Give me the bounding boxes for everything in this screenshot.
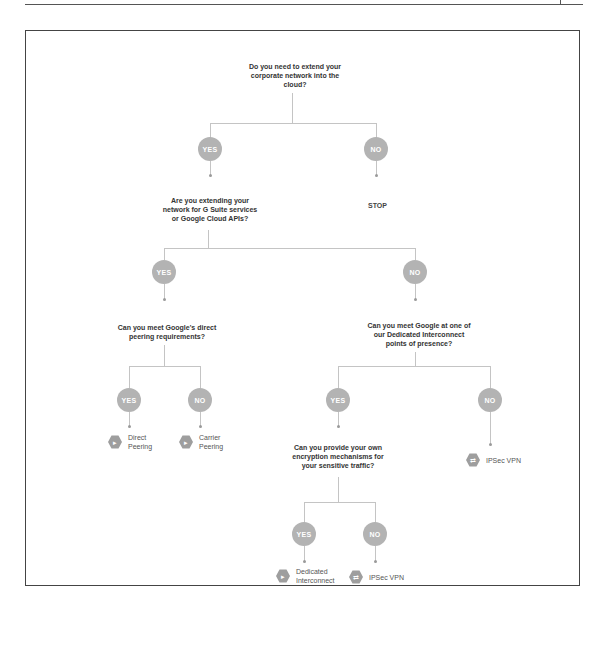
arrow-tip [374,560,377,563]
connector [490,366,491,388]
arrow-tip [163,298,166,301]
arrow-tip [209,174,212,177]
connector [338,366,491,367]
connector [292,93,293,123]
answer-no-node: NO [363,522,387,546]
connector [129,366,201,367]
connector [200,412,201,426]
peering-icon: ▸ [179,435,193,449]
connector [164,284,165,299]
connector [164,345,165,366]
question-interconnect-pop: Can you meet Google at one of our Dedica… [365,321,473,348]
answer-no-node: NO [403,260,427,284]
connector [208,230,209,248]
answer-yes-node: YES [292,522,316,546]
answer-yes-node: YES [117,388,141,412]
outcome-label: IPSec VPN [486,456,521,465]
question-encryption: Can you provide your own encryption mech… [288,443,388,470]
outcome-label: IPSec VPN [369,573,404,582]
connector [304,502,305,524]
connector [164,248,416,249]
outcome-ipsec-vpn-2: ⇄ IPSec VPN [349,570,404,584]
outcome-label: Direct Peering [128,433,162,451]
connector [375,546,376,561]
connector [376,123,377,138]
connector [210,123,377,124]
connector [415,352,416,366]
arrow-tip [375,174,378,177]
answer-yes-node: YES [326,388,350,412]
interconnect-icon: ▸ [276,569,290,583]
answer-no-node: NO [478,388,502,412]
page-top-rule [25,4,583,5]
answer-yes-node: YES [198,137,222,161]
connector [200,366,201,388]
answer-no-node: NO [188,388,212,412]
connector [338,412,339,426]
connector [338,477,339,502]
answer-yes-node: YES [152,260,176,284]
peering-icon: ▸ [108,435,122,449]
outcome-direct-peering: ▸ Direct Peering [108,433,162,451]
connector [210,123,211,138]
question-direct-peering: Can you meet Google's direct peering req… [112,323,222,341]
vpn-icon: ⇄ [349,570,363,584]
arrow-tip [414,298,417,301]
question-gsuite-apis: Are you extending your network for G Sui… [160,196,260,223]
answer-no-node: NO [364,137,388,161]
outcome-ipsec-vpn: ⇄ IPSec VPN [466,453,521,467]
connector [415,284,416,299]
connector [129,412,130,426]
outcome-label: Carrier Peering [199,433,233,451]
connector [375,502,376,524]
stop-label: STOP [368,202,387,209]
arrow-tip [303,560,306,563]
connector [210,161,211,175]
connector [129,366,130,388]
arrow-tip [337,425,340,428]
arrow-tip [128,425,131,428]
arrow-tip [489,443,492,446]
question-extend-network: Do you need to extend your corporate net… [245,62,345,89]
outcome-label: Dedicated Interconnect [296,567,344,585]
connector [304,502,376,503]
connector [338,366,339,388]
connector [164,248,165,260]
page-top-tick [560,0,561,4]
vpn-icon: ⇄ [466,453,480,467]
diagram-frame [25,30,580,586]
connector [415,248,416,260]
connector [490,412,491,444]
connector [376,161,377,175]
outcome-dedicated-interconnect: ▸ Dedicated Interconnect [276,567,344,585]
connector [304,546,305,561]
arrow-tip [199,425,202,428]
outcome-carrier-peering: ▸ Carrier Peering [179,433,233,451]
